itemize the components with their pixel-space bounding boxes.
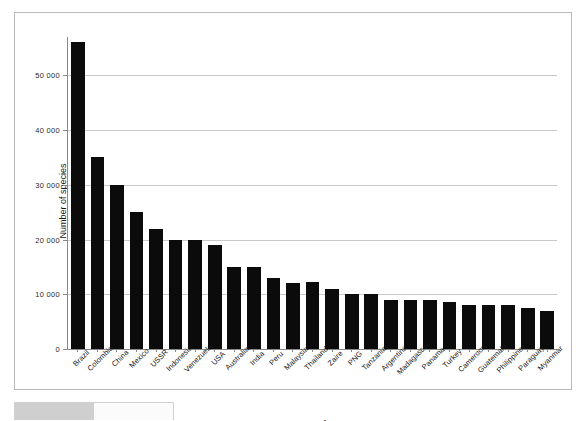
y-tick-label: 20 000 xyxy=(35,235,60,244)
x-tick-mark xyxy=(156,349,157,352)
bar xyxy=(345,294,359,349)
x-tick-mark xyxy=(332,349,333,352)
y-tick-label: 10 000 xyxy=(35,290,60,299)
x-tick-mark xyxy=(312,349,313,352)
bar xyxy=(462,305,476,349)
bar-slot xyxy=(244,37,264,349)
x-tick-mark xyxy=(97,349,98,352)
x-tick-mark xyxy=(77,349,78,352)
bar xyxy=(71,42,85,349)
bar-slot xyxy=(420,37,440,349)
bar xyxy=(286,283,300,349)
bar xyxy=(208,245,222,349)
bar xyxy=(306,282,320,349)
x-tick-mark xyxy=(410,349,411,352)
bar-slot xyxy=(479,37,499,349)
bar-slot xyxy=(342,37,362,349)
bar xyxy=(169,240,183,349)
tab-active[interactable] xyxy=(15,403,94,420)
bar-slot xyxy=(283,37,303,349)
bar xyxy=(149,229,163,349)
x-tick-mark xyxy=(116,349,117,352)
bar xyxy=(404,300,418,349)
bar-series xyxy=(68,37,557,349)
bar xyxy=(384,300,398,349)
bar-slot xyxy=(107,37,127,349)
y-tick-label: 30 000 xyxy=(35,180,60,189)
bar-slot xyxy=(401,37,421,349)
bar-slot xyxy=(68,37,88,349)
x-tick-mark xyxy=(469,349,470,352)
bar xyxy=(91,157,105,349)
bar-slot xyxy=(88,37,108,349)
bar xyxy=(482,305,496,349)
x-tick-mark xyxy=(273,349,274,352)
bar-slot xyxy=(498,37,518,349)
bar xyxy=(443,302,457,349)
bar-slot xyxy=(381,37,401,349)
x-tick-mark xyxy=(253,349,254,352)
bottom-ui-strip xyxy=(0,394,587,420)
bar-slot xyxy=(361,37,381,349)
bar-slot xyxy=(440,37,460,349)
bar xyxy=(130,212,144,349)
bar-slot xyxy=(146,37,166,349)
chart-panel: Number of species 010 00020 00030 00040 … xyxy=(14,12,572,390)
x-tick-mark xyxy=(429,349,430,352)
bar-slot xyxy=(518,37,538,349)
bar-slot xyxy=(166,37,186,349)
x-tick-mark xyxy=(351,349,352,352)
x-tick-mark xyxy=(449,349,450,352)
bar xyxy=(267,278,281,349)
bar xyxy=(540,311,554,349)
bar-slot xyxy=(264,37,284,349)
tab-bar[interactable] xyxy=(14,402,174,420)
y-tick-label: 50 000 xyxy=(35,71,60,80)
bar xyxy=(364,294,378,349)
bar xyxy=(325,289,339,349)
x-tick-mark xyxy=(136,349,137,352)
bar-slot xyxy=(459,37,479,349)
x-tick-mark xyxy=(195,349,196,352)
bar xyxy=(247,267,261,349)
bar xyxy=(227,267,241,349)
x-tick-mark xyxy=(175,349,176,352)
bar-slot xyxy=(185,37,205,349)
bar-slot xyxy=(322,37,342,349)
bar-slot xyxy=(225,37,245,349)
bar xyxy=(110,185,124,349)
bar-slot xyxy=(538,37,558,349)
tab-inactive[interactable] xyxy=(94,403,173,420)
bar xyxy=(188,240,202,349)
x-tick-mark xyxy=(234,349,235,352)
bar-slot xyxy=(127,37,147,349)
y-tick-label: 40 000 xyxy=(35,126,60,135)
x-tick-mark xyxy=(214,349,215,352)
x-tick-mark xyxy=(508,349,509,352)
x-tick-mark xyxy=(547,349,548,352)
x-tick-mark xyxy=(371,349,372,352)
x-tick-mark xyxy=(292,349,293,352)
y-tick-label: 0 xyxy=(56,345,60,354)
plot-area: 010 00020 00030 00040 00050 000 xyxy=(68,37,557,349)
x-tick-mark xyxy=(488,349,489,352)
x-tick-mark xyxy=(390,349,391,352)
bar-slot xyxy=(205,37,225,349)
x-tick-mark xyxy=(527,349,528,352)
bar-slot xyxy=(303,37,323,349)
